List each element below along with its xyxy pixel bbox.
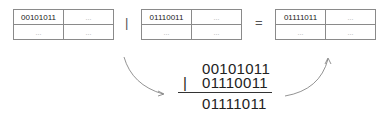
sum-line <box>178 92 272 93</box>
or-operator-vertical: | <box>183 75 187 90</box>
operand-2: 01110011 <box>202 75 268 90</box>
result: 01111011 <box>202 96 267 111</box>
arrow-up-right-icon <box>0 0 387 117</box>
